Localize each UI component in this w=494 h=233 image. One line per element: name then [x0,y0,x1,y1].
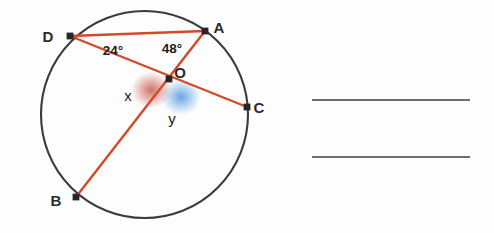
point-marker-d [67,33,74,40]
point-marker-c [244,104,251,111]
point-label-c: C [254,99,265,116]
point-marker-b [73,194,80,201]
shaded-angle-y [161,79,201,115]
worksheet-page: A B C D O 24° 48° x y [0,0,494,233]
point-label-o: O [174,64,186,81]
point-label-b: B [51,192,62,209]
circle-outline [41,11,248,218]
circle-geometry-figure: A B C D O 24° 48° x y [0,0,494,233]
point-marker-a [202,28,209,35]
point-label-a: A [214,19,225,36]
variable-label-y: y [168,110,176,127]
angle-label-24: 24° [103,43,123,58]
point-marker-o [166,76,173,83]
point-label-d: D [43,28,54,45]
chord-d-a [70,31,205,36]
angle-label-48: 48° [162,41,182,56]
variable-label-x: x [124,87,132,104]
